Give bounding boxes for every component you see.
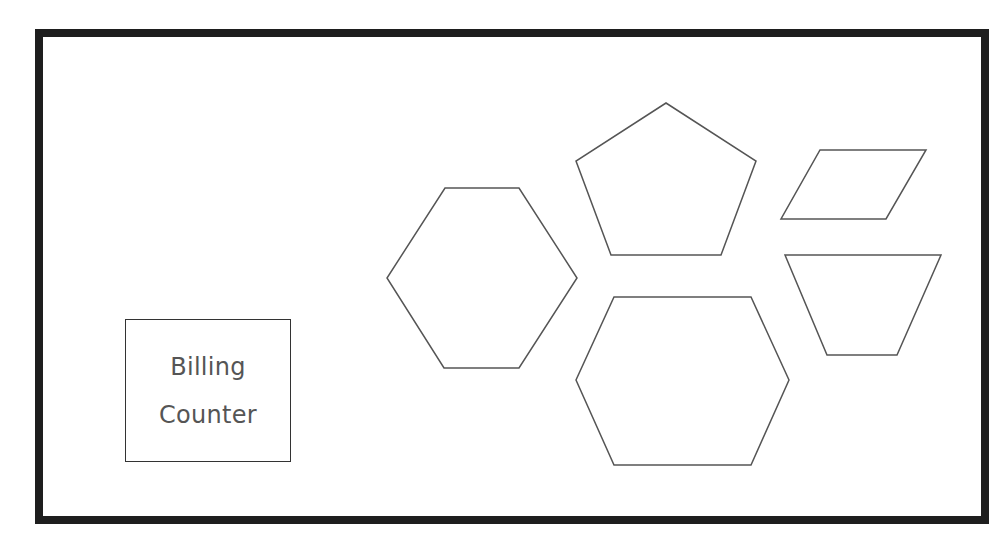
billing-counter-label-line-2: Counter (159, 391, 257, 439)
billing-counter-label-line-1: Billing (170, 343, 246, 391)
billing-counter[interactable]: Billing Counter (125, 319, 291, 462)
hexagon-bottom-shape[interactable] (576, 297, 789, 465)
